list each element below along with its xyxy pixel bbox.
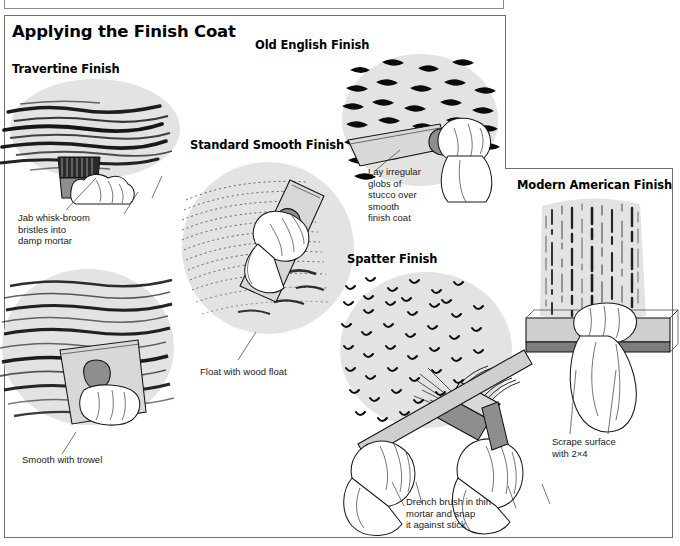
old-english-illustration xyxy=(340,48,510,208)
hand-holding-trowel xyxy=(80,385,140,425)
caption-travertine: Jab whisk-broom bristles into damp morta… xyxy=(18,212,90,247)
body-text-frame: Many other patterns, as illustrated, can… xyxy=(505,15,673,169)
section-title-spatter: Spatter Finish xyxy=(347,252,437,266)
standard-smooth-illustration xyxy=(178,152,358,352)
top-rule-box xyxy=(4,0,504,9)
section-title-modern-american: Modern American Finish xyxy=(517,178,672,192)
hand-holding-trowel-old-english xyxy=(438,118,492,202)
caption-old-english: Lay irregular globs of stucco over smoot… xyxy=(368,166,421,224)
page-title: Applying the Finish Coat xyxy=(12,22,236,41)
standard-smooth-leader-line xyxy=(178,330,358,370)
caption-modern-american: Scrape surface with 2×4 xyxy=(552,436,616,459)
caption-smooth-trowel: Smooth with trowel xyxy=(22,454,102,466)
smooth-trowel-illustration xyxy=(0,262,200,447)
section-title-standard-smooth: Standard Smooth Finish xyxy=(190,138,344,152)
caption-spatter: Drench brush in thin mortar and snap it … xyxy=(406,496,491,531)
caption-standard-smooth: Float with wood float xyxy=(200,366,287,378)
illustrated-instruction-page: Many other patterns, as illustrated, can… xyxy=(0,0,680,546)
